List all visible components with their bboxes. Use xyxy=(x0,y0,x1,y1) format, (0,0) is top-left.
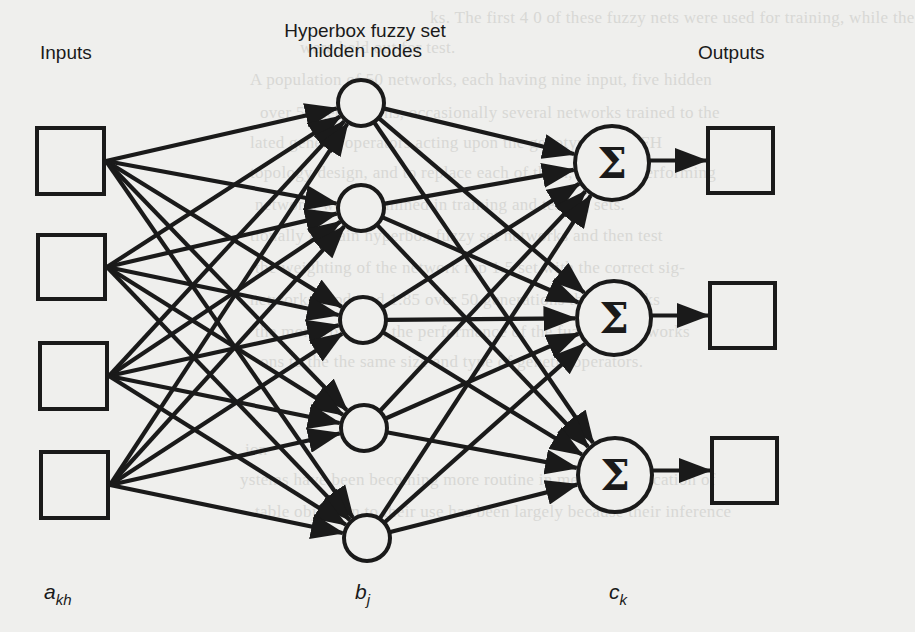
sigma-icon: Σ xyxy=(599,294,629,343)
sigma-icon: Σ xyxy=(600,451,630,500)
hidden-nodes-header: Hyperbox fuzzy set hidden nodes xyxy=(265,21,465,61)
edge-hidden-to-sum xyxy=(377,225,588,447)
input-node-box xyxy=(40,343,107,409)
edge-hidden-to-sum xyxy=(379,118,585,293)
hidden-symbol-base: b xyxy=(355,580,367,603)
sigma-icon: Σ xyxy=(597,139,627,188)
outputs-header: Outputs xyxy=(698,43,765,63)
edge-input-to-hidden xyxy=(106,109,337,161)
edge-input-to-hidden xyxy=(110,485,343,533)
input-node-box xyxy=(41,452,108,518)
input-node-box xyxy=(37,128,104,194)
hidden-node-circle xyxy=(344,515,390,561)
input-node-box xyxy=(38,235,105,299)
hidden-node-circle xyxy=(341,405,387,451)
output-symbol-sub: k xyxy=(620,591,628,608)
hidden-node-circle xyxy=(338,80,384,126)
input-symbol-base: a xyxy=(44,580,56,603)
output-node-box xyxy=(708,128,773,193)
output-node-box xyxy=(710,283,775,348)
hidden-node-circle xyxy=(340,297,386,343)
edge-hidden-to-sum xyxy=(386,318,575,320)
edge-input-to-hidden xyxy=(107,214,337,267)
hidden-symbol-sub: j xyxy=(367,591,370,608)
edge-hidden-to-sum xyxy=(380,191,586,411)
edge-input-to-hidden xyxy=(110,433,340,485)
output-symbol-ck: ck xyxy=(609,580,627,608)
hidden-header-line1: Hyperbox fuzzy set xyxy=(265,21,465,41)
hidden-symbol-bj: bj xyxy=(355,580,370,608)
hidden-header-line2: hidden nodes xyxy=(265,41,465,61)
inputs-header: Inputs xyxy=(40,43,92,63)
output-node-box xyxy=(712,438,777,503)
output-symbol-base: c xyxy=(609,580,620,603)
input-symbol-sub: kh xyxy=(56,591,72,608)
edge-hidden-to-sum xyxy=(384,344,585,523)
hidden-node-circle xyxy=(338,185,384,231)
input-symbol-akh: akh xyxy=(44,580,72,608)
